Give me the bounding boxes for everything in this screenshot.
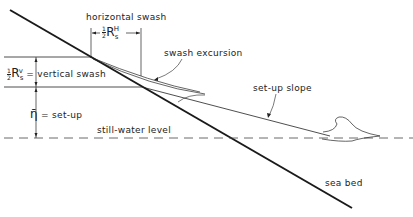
eta-symbol: η̄ — [30, 107, 38, 121]
setup-slope-label: set-up slope — [253, 83, 312, 93]
arrow-head — [136, 32, 140, 35]
setup-formula: η̄ = set-up — [30, 107, 82, 121]
setup-label: = set-up — [41, 110, 82, 120]
arrow-head — [35, 88, 38, 92]
horizontal-swash-label: horizontal swash — [86, 12, 167, 22]
arrow-head — [35, 133, 38, 137]
sub-s: s — [115, 33, 119, 41]
horizontal-swash-formula: 12RsH — [102, 25, 119, 41]
backwash-curve — [178, 95, 205, 102]
vertical-swash-label: = vertical swash — [26, 69, 106, 79]
setup-slope-leader — [269, 94, 276, 116]
sup-v: v — [19, 67, 23, 75]
vertical-swash-formula: 12Rsv = vertical swash — [7, 66, 106, 82]
arrow-head — [35, 58, 38, 62]
arrow-head — [92, 32, 96, 35]
swash-excursion-label: swash excursion — [164, 48, 243, 58]
breaking-wave — [322, 117, 380, 141]
swash-excursion-leader — [156, 59, 182, 79]
arrow-head — [35, 82, 38, 86]
still-water-level-label: still-water level — [97, 125, 171, 135]
sea-bed-label: sea bed — [325, 178, 363, 188]
sup-h: H — [114, 25, 120, 33]
